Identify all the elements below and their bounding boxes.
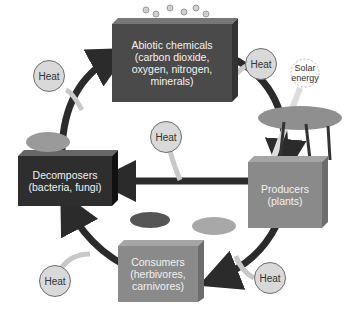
decomposers-label-2: (bacteria, fungi) (29, 181, 102, 193)
arrow-decomposers-to-abiotic (62, 58, 112, 150)
abiotic-label-2: (carbon dioxide, (135, 51, 210, 63)
decomposers-box: Decomposers (bacteria, fungi) (18, 156, 112, 206)
heat-circle-bottom-left: Heat (39, 265, 71, 297)
heat-circle-top-left: Heat (33, 60, 65, 92)
producers-label-2: (plants) (267, 195, 302, 207)
producers-box: Producers (plants) (248, 162, 322, 228)
heat-circle-bottom-right: Heat (254, 262, 286, 294)
consumers-box: Consumers (herbivores, carnivores) (118, 246, 198, 302)
abiotic-chemicals-box: Abiotic chemicals (carbon dioxide, oxyge… (112, 24, 232, 102)
consumers-label-1: Consumers (131, 256, 185, 268)
consumers-label-3: carnivores) (132, 280, 184, 292)
abiotic-label-4: minerals) (150, 75, 193, 87)
consumers-label-2: (herbivores, (130, 268, 185, 280)
producers-label-1: Producers (261, 183, 309, 195)
abiotic-label-1: Abiotic chemicals (131, 39, 212, 51)
heat-circle-top-right: Heat (245, 48, 277, 80)
decomposers-label-1: Decomposers (33, 169, 98, 181)
solar-line-1: Solar (294, 63, 315, 73)
solar-line-2: energy (291, 73, 319, 83)
solar-energy-label: Solar energy (286, 63, 324, 83)
heat-circle-center: Heat (150, 121, 182, 153)
abiotic-label-3: oxygen, nitrogen, (132, 63, 213, 75)
